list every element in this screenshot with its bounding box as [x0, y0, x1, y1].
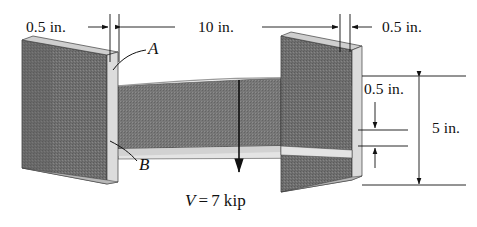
force-symbol: V — [185, 191, 195, 210]
right-flange-face — [281, 36, 352, 192]
dimension-label-left-flange-thickness: 0.5 in. — [26, 19, 66, 35]
applied-force-label: V=7kip — [185, 192, 246, 209]
figure-canvas: 0.5 in. 10 in. 0.5 in. 0.5 in. 5 in. A B… — [0, 0, 477, 227]
left-flange-shadow — [22, 40, 52, 174]
left-flange — [22, 36, 118, 184]
force-magnitude: 7 — [211, 191, 220, 210]
dimension-label-web-thickness: 0.5 in. — [364, 81, 404, 97]
callout-label-b: B — [139, 156, 149, 173]
dimension-label-total-depth: 5 in. — [432, 120, 460, 136]
force-unit: kip — [224, 191, 246, 210]
right-flange — [281, 32, 362, 192]
right-flange-side-edge — [352, 46, 362, 180]
dimension-label-web-span: 10 in. — [198, 19, 234, 35]
web-face — [118, 78, 281, 149]
force-equals: = — [198, 191, 208, 210]
left-flange-side-edge — [107, 52, 118, 184]
dimension-label-right-flange-thickness: 0.5 in. — [382, 19, 422, 35]
callout-label-a: A — [148, 40, 158, 57]
